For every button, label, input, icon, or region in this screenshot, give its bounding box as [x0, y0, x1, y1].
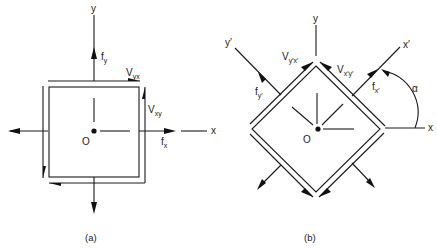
alpha-arc: [383, 71, 418, 128]
vxpyp-arrow-icon: [320, 62, 332, 71]
vxpyp-label: Vx′y′: [337, 64, 354, 78]
fyp-arrow-icon: [258, 72, 266, 83]
stress-element-diagram: y fy Vyx Vxy O: [0, 0, 437, 248]
xp-axis-label: x′: [403, 39, 410, 50]
fx-right-arrow-icon: [164, 128, 176, 134]
origin-dot-a: [91, 128, 96, 133]
fy-label: fy: [101, 51, 108, 65]
fx-left-arrow-icon: [8, 128, 20, 134]
fy-arrow-icon: [91, 47, 97, 59]
origin-label-a: O: [82, 136, 90, 147]
alpha-label: α: [412, 83, 418, 94]
panel-a: y fy Vyx Vxy O: [8, 3, 216, 243]
yp-axis-label: y′: [225, 37, 232, 48]
fxp-arrow-icon: [367, 69, 378, 78]
fyp-label: fy′: [255, 86, 263, 100]
yp-axis: [235, 48, 281, 95]
caption-a: (a): [85, 232, 97, 243]
origin-dot-b: [315, 126, 320, 131]
inner-diag-right-b: [322, 104, 343, 125]
origin-label-b: O: [303, 134, 311, 145]
panel-b: y Vy′x′ Vx′y′ y′ fy′ x′ fx′: [225, 13, 433, 243]
vypxp-arrow-icon: [301, 62, 313, 71]
x-axis-label-a: x: [211, 125, 216, 136]
vxy-arrow-icon: [142, 87, 145, 99]
fy-bottom-arrow-icon: [91, 202, 97, 214]
shear-bottomright-arrow-icon: [319, 188, 331, 197]
fxp-label: fx′: [372, 81, 380, 94]
vypxp-label: Vy′x′: [282, 51, 299, 65]
inner-diag-left-b: [292, 107, 313, 125]
shear-bottom-arrow-icon: [49, 183, 61, 186]
y-axis-label-b: y: [313, 13, 318, 24]
vxy-label: Vxy: [148, 104, 162, 118]
fx-label: fx: [161, 136, 168, 149]
shear-bottomleft-arrow-icon: [301, 188, 313, 197]
shear-left-arrow-icon: [43, 166, 46, 178]
alpha-arrow-icon: [381, 69, 390, 77]
y-axis-label-a: y: [91, 3, 96, 14]
caption-b: (b): [304, 232, 316, 243]
x-axis-label-b: x: [428, 122, 433, 133]
